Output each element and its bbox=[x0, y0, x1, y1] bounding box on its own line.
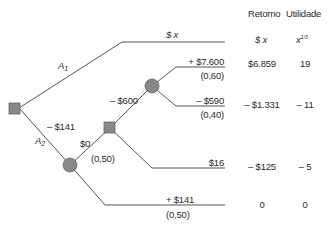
decision-node-middle bbox=[104, 122, 115, 133]
utility-header: Utilidade bbox=[286, 9, 321, 19]
decision-up-value: – $600 bbox=[110, 96, 138, 106]
row-decline-utility: – 5 bbox=[290, 162, 320, 172]
chance-down-prob: (0,50) bbox=[166, 210, 190, 220]
return-header: Retorno bbox=[248, 9, 280, 19]
outcome-win-value: + $7.600 bbox=[188, 57, 224, 67]
chance-node-upper bbox=[145, 79, 159, 93]
a2-label: A2 bbox=[35, 136, 45, 147]
branch-chance-down bbox=[70, 165, 225, 205]
chance-up-value: $0 bbox=[80, 139, 90, 149]
utility-formula: x1/3 bbox=[296, 35, 308, 45]
a1-payoff: $ x bbox=[166, 30, 178, 40]
row-win-utility: 19 bbox=[290, 59, 320, 69]
row-win-return: $6.859 bbox=[240, 59, 284, 69]
a1-label-sub: 1 bbox=[64, 65, 68, 72]
a2-label-sub: 2 bbox=[41, 140, 45, 147]
row-decline-return: – $125 bbox=[240, 162, 284, 172]
outcome-lose-value: – $590 bbox=[188, 96, 224, 106]
chance-node-lower bbox=[63, 158, 77, 172]
outcome-win-prob: (0,60) bbox=[188, 71, 224, 81]
row-lose-return: – $1.331 bbox=[238, 100, 286, 110]
chance-up-prob: (0,50) bbox=[91, 154, 115, 164]
decision-node-root bbox=[9, 103, 20, 114]
row-no-lawsuit-utility: 0 bbox=[290, 200, 320, 210]
chance-down-value: + $141 bbox=[166, 195, 194, 205]
decision-tree-lines bbox=[0, 0, 328, 230]
row-no-lawsuit-return: 0 bbox=[240, 200, 284, 210]
a2-cost: – $141 bbox=[47, 122, 75, 132]
row-lose-utility: – 11 bbox=[290, 100, 320, 110]
outcome-lose-prob: (0,40) bbox=[188, 110, 224, 120]
a1-label: A1 bbox=[58, 61, 68, 72]
decision-down-value: $16 bbox=[188, 158, 224, 168]
branch-decision-up bbox=[110, 86, 152, 128]
utility-formula-exponent: 1/3 bbox=[301, 34, 308, 40]
return-formula: $ x bbox=[255, 35, 267, 45]
